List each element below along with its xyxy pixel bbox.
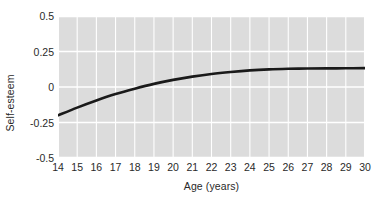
plot-svg <box>58 16 365 158</box>
y-axis-title: Self-esteem <box>0 0 20 206</box>
chart-figure: Self-esteem 0.50.250-0.25-0.5 1415161718… <box>0 0 376 206</box>
x-tick-label: 30 <box>352 162 376 173</box>
y-tick-label: 0.5 <box>0 11 54 22</box>
y-tick-label: -0.25 <box>0 117 54 128</box>
y-tick-label: 0 <box>0 82 54 93</box>
y-tick-label: 0.25 <box>0 46 54 57</box>
x-axis-title: Age (years) <box>58 180 365 192</box>
plot-area <box>58 16 365 158</box>
